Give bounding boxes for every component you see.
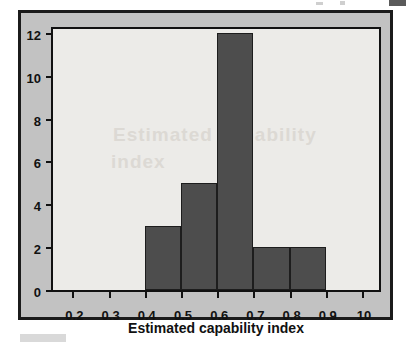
y-tick-label-10: 10 xyxy=(27,70,41,85)
y-tick-8: 8 xyxy=(46,119,53,121)
histogram-bar-0.4-0.5 xyxy=(145,226,181,290)
histogram-bar-0.7-0.8 xyxy=(253,247,289,290)
y-tick-label-12: 12 xyxy=(27,27,41,42)
y-tick-10: 10 xyxy=(46,76,53,78)
x-tick-0.6: 0.6 xyxy=(217,290,219,298)
x-tick-0.8: 0.8 xyxy=(290,290,292,298)
x-tick-0.9: 0.9 xyxy=(326,290,328,298)
histogram-bar-0.8-0.9 xyxy=(290,247,326,290)
histogram-bar-0.5-0.6 xyxy=(181,183,217,290)
y-tick-label-2: 2 xyxy=(34,242,41,257)
y-tick-0: 0 xyxy=(46,290,53,292)
y-tick-label-8: 8 xyxy=(34,113,41,128)
scan-speck-1 xyxy=(316,2,323,5)
x-axis-title: Estimated capability index xyxy=(53,320,379,336)
y-tick-12: 12 xyxy=(46,33,53,35)
x-tick-0.3: 0.3 xyxy=(109,290,111,298)
x-tick-0.7: 0.7 xyxy=(253,290,255,298)
y-tick-label-6: 6 xyxy=(34,156,41,171)
x-tick-1.0: 10 xyxy=(362,290,364,298)
x-tick-0.2: 0.2 xyxy=(72,290,74,298)
y-tick-label-4: 4 xyxy=(34,199,41,214)
scan-speck-2 xyxy=(340,1,345,5)
plot-area: Estimated capability index xyxy=(53,29,379,290)
y-tick-4: 4 xyxy=(46,204,53,206)
figure-frame: Estimated capability index 0 2 4 6 xyxy=(18,10,393,320)
caption-smudge xyxy=(20,334,66,342)
x-tick-0.4: 0.4 xyxy=(145,290,147,298)
y-tick-6: 6 xyxy=(46,161,53,163)
figure-mat: Estimated capability index 0 2 4 6 xyxy=(21,13,390,317)
ghost-text-line-1: Estimated capability xyxy=(113,124,317,146)
plot-frame: Estimated capability index 0 2 4 6 xyxy=(51,27,381,292)
ghost-text-line-2: index xyxy=(111,151,166,173)
scan-speck-3 xyxy=(389,0,406,6)
scan-artifacts xyxy=(0,0,406,10)
histogram-bar-0.6-0.7 xyxy=(217,33,253,290)
y-tick-2: 2 xyxy=(46,247,53,249)
x-tick-0.5: 0.5 xyxy=(181,290,183,298)
y-tick-label-0: 0 xyxy=(34,285,41,300)
